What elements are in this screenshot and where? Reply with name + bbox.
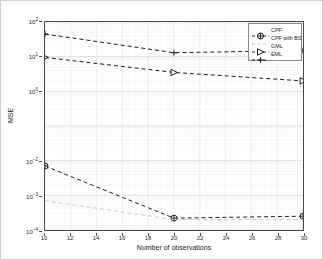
y-tick-mark xyxy=(39,21,42,22)
legend-line-sample xyxy=(251,42,270,50)
legend-item-gml[interactable]: GML xyxy=(251,42,299,50)
x-tick-mark xyxy=(174,233,175,236)
y-axis-title: MSE xyxy=(7,86,14,146)
x-tick-mark xyxy=(200,233,201,236)
legend-label: GML xyxy=(270,42,283,50)
legend-item-cpf[interactable]: CPF xyxy=(251,26,299,34)
legend-line-sample xyxy=(251,26,270,34)
legend-label: CPF with BS xyxy=(270,34,302,42)
x-tick-mark xyxy=(252,233,253,236)
y-tick-mark xyxy=(39,196,42,197)
legend-item-cpf-with-bs[interactable]: CPF with BS xyxy=(251,34,299,42)
y-tick-mark xyxy=(39,91,42,92)
legend-label: CPF xyxy=(270,26,282,34)
x-tick-mark xyxy=(44,233,45,236)
x-tick-mark xyxy=(122,233,123,236)
legend-box: CPFCPF with BSGMLEML xyxy=(248,23,302,61)
legend-line-sample xyxy=(251,50,270,58)
x-tick-mark xyxy=(304,233,305,236)
legend-item-eml[interactable]: EML xyxy=(251,50,299,58)
y-tick-mark xyxy=(39,56,42,57)
x-tick-mark xyxy=(70,233,71,236)
x-axis-title: Number of observations xyxy=(44,244,304,251)
legend-line-sample xyxy=(251,34,270,42)
x-tick-mark xyxy=(278,233,279,236)
y-tick-mark xyxy=(39,231,42,232)
x-tick-mark xyxy=(96,233,97,236)
figure-canvas: 10−410−310−2100101102 101214161820222426… xyxy=(0,0,323,260)
y-tick-mark xyxy=(39,161,42,162)
legend-label: EML xyxy=(270,50,282,58)
x-tick-mark xyxy=(226,233,227,236)
x-tick-mark xyxy=(148,233,149,236)
